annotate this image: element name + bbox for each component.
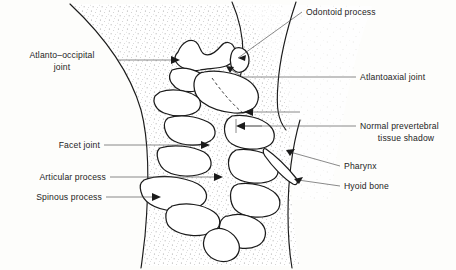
label-atlantoaxial-joint: Atlantoaxial joint [360,72,426,82]
label-odontoid-process: Odontoid process [306,7,376,17]
label-articular-process: Articular process [39,172,106,182]
label-facet-joint: Facet joint [59,140,101,150]
label-atlanto-occipital-joint-line1: Atlanto–occipital [29,50,94,60]
label-atlanto-occipital-joint-line2: joint [53,62,71,72]
label-pharynx: Pharynx [344,161,377,171]
label-normal-prevertebral-line2: tissue shadow [378,133,435,143]
odontoid-process-bone [230,48,249,73]
label-normal-prevertebral-line1: Normal prevertebral [360,121,439,131]
label-hyoid-bone: Hyoid bone [344,181,389,191]
label-spinous-process: Spinous process [36,192,102,202]
cervical-spine-figure: Odontoid process Atlanto–occipital joint… [0,0,456,270]
